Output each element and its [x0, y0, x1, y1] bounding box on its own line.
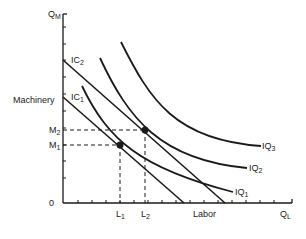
y-mark-m1: M1	[49, 141, 60, 151]
isoquant-curves	[82, 42, 261, 192]
isocost-ic2-label: IC2	[71, 56, 84, 66]
isoquant-iq1-label: IQ1	[235, 188, 248, 198]
isocost-ic1-label: IC1	[71, 93, 84, 103]
isoquant-iq2-label: IQ2	[249, 164, 262, 174]
isoquant-isocost-diagram: QM Machinery 0 Labor QL IC2 IC1 IQ3 IQ2 …	[0, 0, 306, 239]
y-mark-m2: M2	[49, 126, 60, 136]
x-mark-l2: L2	[141, 210, 150, 220]
x-axis-label: QL	[280, 210, 291, 220]
tangency-point-1	[117, 142, 124, 149]
projection-lines	[63, 130, 145, 203]
tangency-point-2	[142, 127, 149, 134]
y-axis-label: QM	[48, 10, 61, 20]
origin-label: 0	[49, 199, 54, 208]
x-axis-title: Labor	[193, 210, 216, 219]
y-axis-title: Machinery	[13, 96, 55, 105]
diagram-canvas	[0, 0, 306, 239]
x-mark-l1: L1	[116, 210, 125, 220]
isoquant-iq3-label: IQ3	[262, 142, 275, 152]
